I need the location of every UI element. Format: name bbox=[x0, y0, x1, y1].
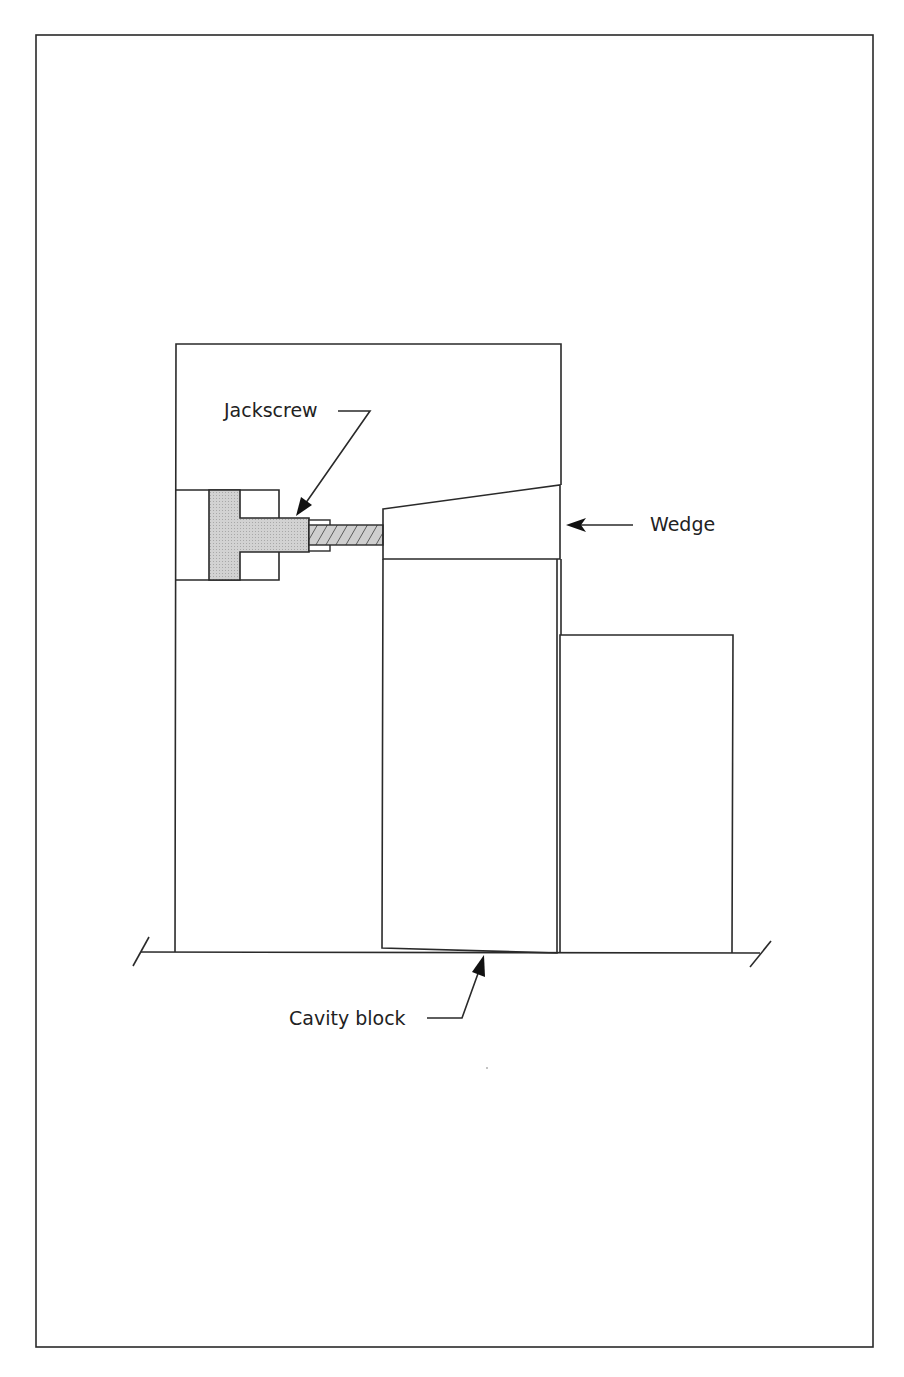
jackscrew-arrowhead-icon bbox=[296, 497, 312, 516]
right-block bbox=[560, 635, 733, 953]
wedge-label: Wedge bbox=[650, 513, 715, 535]
wedge-jackscrew-diagram: Jackscrew Wedge Cavity block bbox=[0, 0, 904, 1377]
wedge-callout: Wedge bbox=[566, 513, 715, 535]
base-line bbox=[133, 937, 771, 967]
page-border bbox=[36, 35, 873, 1347]
cavity-block-label: Cavity block bbox=[289, 1007, 406, 1029]
jackscrew-head bbox=[209, 490, 309, 580]
cavity-block-callout: Cavity block bbox=[289, 955, 485, 1029]
jackscrew-label: Jackscrew bbox=[223, 399, 318, 421]
speck bbox=[486, 1067, 488, 1069]
cavity-block bbox=[382, 559, 557, 953]
left-block bbox=[175, 344, 561, 952]
jackscrew-thread bbox=[309, 525, 383, 545]
wedge bbox=[383, 485, 560, 559]
jackscrew-callout: Jackscrew bbox=[223, 399, 370, 516]
cavity-block-arrowhead-icon bbox=[472, 955, 485, 977]
